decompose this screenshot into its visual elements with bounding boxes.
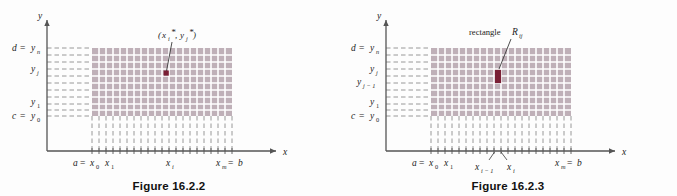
x-tick-label-xm-b: x m = b [554, 158, 582, 170]
sample-point-sub-i: i [168, 35, 170, 42]
y-tick-sub-j: j [36, 69, 39, 76]
figure-sheet: x y d = y n y j y 1 c = y 0 [0, 0, 677, 196]
y-tick-label-c-y0: c = y 0 [12, 111, 40, 123]
x-tick-a: a [412, 158, 417, 168]
highlighted-rectangle-Rij [495, 70, 501, 83]
x-tick-a: a [73, 158, 78, 168]
y-tick-sub-1: 1 [376, 102, 379, 109]
y-tick-label-yj: y j [30, 64, 39, 76]
x-tick-sub-m: m [561, 163, 566, 170]
y-tick-y0: y [369, 111, 375, 121]
x-tick-sub-m: m [222, 163, 227, 170]
rectangle-R: R [511, 27, 518, 37]
x-tick-sub-1: 1 [450, 163, 453, 170]
x-axis-label: x [282, 147, 288, 157]
x-tick-x: x [89, 158, 95, 168]
x-tick-label-xm-b: x m = b [215, 158, 243, 170]
x-tick-xi: x [165, 158, 171, 168]
x-tick-sub-i: i [513, 167, 515, 174]
y-tick-eq2: = [20, 111, 25, 121]
sample-point-sub-j: j [185, 35, 188, 42]
y-axis-label: y [376, 11, 382, 21]
x-tick-label-a-x0: a = x 0 [412, 158, 438, 170]
x-tick-label-xi: x i [165, 158, 174, 170]
x-tick-x1: x [104, 158, 110, 168]
y-tick-y0: y [30, 111, 36, 121]
x-tick-label-a-x0: a = x 0 [73, 158, 99, 170]
y-tick-c: c [12, 111, 17, 121]
x-axis-arrow [609, 148, 615, 153]
figure-16-2-3-caption: Figure 16.2.3 [339, 180, 677, 192]
y-dashed-extensions [47, 48, 92, 116]
sample-point-y: y [179, 30, 184, 40]
figure-divider [338, 0, 339, 196]
figure-16-2-3: x y d = y n y j y j − 1 y 1 c [339, 0, 677, 196]
x-tick-b: b [238, 158, 243, 168]
y-tick-d: d [12, 43, 17, 53]
y-tick-sub-n: n [376, 48, 379, 55]
y-tick-y: y [369, 43, 375, 53]
x-tick-eq: = [80, 158, 85, 168]
y-tick-sub-1: 1 [37, 102, 40, 109]
sample-point-comma: , [175, 30, 177, 40]
y-tick-d: d [351, 43, 356, 53]
y-tick-sub-jm1: j − 1 [362, 82, 375, 89]
x-tick-sub-1: 1 [111, 163, 114, 170]
x-tick-xim1: x [474, 162, 480, 172]
x-axis-label: x [621, 147, 627, 157]
x-tick-label-x1: x 1 [104, 158, 114, 170]
figure-16-2-2: x y d = y n y j y 1 c = y 0 [0, 0, 338, 196]
y-tick-y1: y [369, 97, 375, 107]
figure-16-2-2-canvas: x y d = y n y j y 1 c = y 0 [0, 0, 338, 196]
y-tick-yj: y [369, 64, 375, 74]
y-tick-eq: = [359, 43, 364, 53]
x-tick-sub-0: 0 [96, 163, 99, 170]
y-axis-label: y [37, 11, 43, 21]
figure-16-2-3-canvas: x y d = y n y j y j − 1 y 1 c [339, 0, 677, 196]
figure-16-2-2-caption: Figure 16.2.2 [0, 180, 338, 192]
y-tick-eq2: = [359, 111, 364, 121]
x-tick-leader-lines [489, 152, 507, 160]
y-tick-yj: y [30, 64, 36, 74]
y-tick-label-y1: y 1 [30, 97, 40, 109]
x-dashed-extensions [431, 116, 571, 151]
y-tick-c: c [351, 111, 356, 121]
x-tick-xm: x [215, 158, 221, 168]
y-tick-label-d-yn: d = y n [351, 43, 379, 55]
sample-point-paren-close: ) [192, 30, 196, 40]
y-tick-sub-n: n [37, 48, 40, 55]
y-axis-arrow [44, 20, 49, 26]
y-tick-sub-0: 0 [37, 116, 40, 123]
y-tick-y1: y [30, 97, 36, 107]
y-tick-y: y [30, 43, 36, 53]
x-dashed-extensions [92, 116, 232, 151]
y-dashed-extensions [386, 48, 431, 116]
y-tick-label-y1: y 1 [369, 97, 379, 109]
y-tick-sub-j: j [375, 69, 378, 76]
y-tick-sub-0: 0 [376, 116, 379, 123]
sample-point-x: x [161, 30, 166, 40]
x-tick-eq2: = [567, 158, 572, 168]
rectangle-word: rectangle [469, 27, 501, 37]
y-axis-arrow [383, 20, 388, 26]
x-tick-label-xi-minus-1: x i − 1 [474, 162, 493, 174]
x-tick-sub-i: i [172, 163, 174, 170]
y-tick-yjm1: y [356, 77, 362, 87]
x-axis-arrow [270, 148, 276, 153]
y-tick-label-yj-minus-1: y j − 1 [356, 77, 375, 89]
x-tick-b: b [577, 158, 582, 168]
y-tick-label-yj: y j [369, 64, 378, 76]
x-tick-xi: x [506, 162, 512, 172]
x-tick-label-xi: x i [506, 162, 515, 174]
x-tick-sub-im1: i − 1 [481, 167, 493, 174]
x-tick-x: x [428, 158, 434, 168]
rectangle-sub-ij: ij [519, 32, 523, 39]
x-tick-sub-0: 0 [435, 163, 438, 170]
x-tick-x1: x [443, 158, 449, 168]
y-tick-label-c-y0: c = y 0 [351, 111, 379, 123]
x-tick-eq2: = [228, 158, 233, 168]
x-tick-eq: = [419, 158, 424, 168]
x-tick-xm: x [554, 158, 560, 168]
x-tick-label-x1: x 1 [443, 158, 453, 170]
y-tick-label-d-yn: d = y n [12, 43, 40, 55]
